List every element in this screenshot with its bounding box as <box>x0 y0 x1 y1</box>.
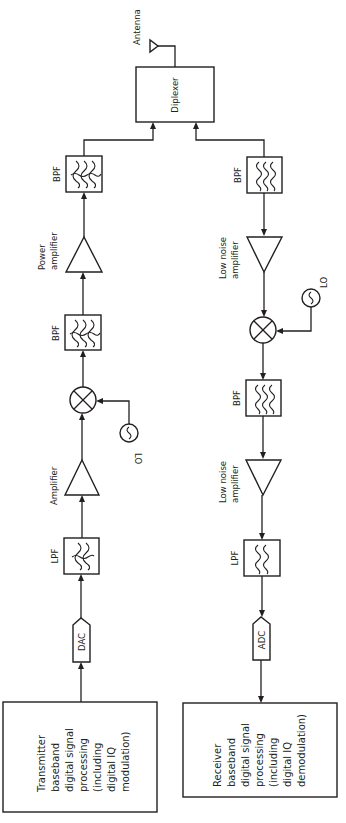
tx-dsp-line2: baseband <box>50 743 61 792</box>
tx-connectors <box>78 122 156 702</box>
rx-lo-label: LO <box>319 277 329 288</box>
antenna-label: Antenna <box>132 9 142 45</box>
antenna-icon <box>150 40 158 52</box>
rx-local-oscillator: LO <box>302 277 329 307</box>
arrow-left-icon <box>276 328 283 334</box>
tx-bpf1: BPF <box>51 315 101 350</box>
transceiver-diagram: Antenna Diplexer <box>0 0 346 823</box>
amplifier-icon <box>246 460 281 495</box>
diplexer-label: Diplexer <box>170 77 180 113</box>
tx-local-oscillator: LO <box>120 424 143 464</box>
arrow-down-icon <box>261 229 267 236</box>
arrow-up-icon <box>78 574 84 581</box>
rx-bpf2: BPF <box>232 380 281 416</box>
tx-lo-label: LO <box>133 453 143 464</box>
rx-mixer <box>250 317 276 343</box>
dac: DAC <box>73 618 90 662</box>
tx-dsp-line5: (including <box>92 743 103 792</box>
rx-dsp-line3: digital signal <box>240 723 251 787</box>
rx-bpf1: BPF <box>233 157 282 193</box>
tx-mixer <box>70 387 96 413</box>
tx-lpf: LPF <box>50 538 99 574</box>
rx-dsp-line4: processing <box>254 733 265 787</box>
rx-lna1-label-line2: amplifier <box>230 241 240 279</box>
amplifier-icon <box>65 460 99 495</box>
amplifier-icon <box>247 237 282 272</box>
tx-dsp-line1: Transmitter <box>36 734 47 793</box>
rx-lna1: Low noise amplifier <box>218 237 282 279</box>
antenna: Antenna <box>132 9 175 67</box>
rx-lpf: LPF <box>230 540 280 576</box>
rx-lna1-label-line1: Low noise <box>218 237 228 279</box>
diplexer: Diplexer <box>136 67 214 122</box>
arrow-up-icon <box>193 122 199 129</box>
arrow-down-icon <box>258 696 264 703</box>
rx-dsp-line5: (including <box>268 738 279 787</box>
tx-amplifier: Amplifier <box>49 460 99 505</box>
arrow-down-icon <box>259 533 265 540</box>
rx-dsp-line7: demodulation) <box>296 714 307 787</box>
tx-bpf2: BPF <box>52 156 102 192</box>
arrow-left-icon <box>96 398 103 404</box>
arrow-up-icon <box>78 662 84 669</box>
rx-dsp-line2: baseband <box>226 738 237 787</box>
tx-bpf1-label: BPF <box>51 325 61 341</box>
arrow-down-icon <box>259 610 265 617</box>
arrow-up-icon <box>79 495 85 502</box>
rx-dsp-line6: digital IQ <box>282 742 293 787</box>
arrow-up-icon <box>150 122 156 129</box>
arrow-up-icon <box>80 350 86 357</box>
tx-pa-label-line2: amplifier <box>49 232 59 270</box>
rx-bpf1-label: BPF <box>233 167 243 183</box>
amplifier-icon <box>66 237 102 272</box>
tx-dsp: Transmitter baseband digital signal proc… <box>3 702 157 812</box>
tx-dsp-line3: digital signal <box>64 728 75 792</box>
arrow-up-icon <box>80 272 86 279</box>
tx-pa-label-line1: Power <box>37 244 47 270</box>
rx-lpf-label: LPF <box>230 551 240 566</box>
tx-bpf2-label: BPF <box>52 166 62 182</box>
dac-label: DAC <box>77 633 87 651</box>
rx-lna2: Low noise amplifier <box>218 460 281 503</box>
tx-dsp-line4: processing <box>78 738 89 792</box>
rx-bpf2-label: BPF <box>232 390 242 406</box>
rx-lna2-label-line2: amplifier <box>230 465 240 503</box>
tx-lpf-label: LPF <box>50 549 60 564</box>
arrow-down-icon <box>261 310 267 317</box>
adc: ADC <box>253 617 270 660</box>
rx-dsp-line1: Receiver <box>212 743 223 787</box>
tx-amp-label: Amplifier <box>49 466 59 505</box>
adc-label: ADC <box>257 631 267 649</box>
arrow-down-icon <box>260 452 266 459</box>
arrow-up-icon <box>79 413 85 420</box>
tx-power-amplifier: Power amplifier <box>37 232 102 272</box>
arrow-down-icon <box>260 373 266 380</box>
tx-dsp-line6: digital IQ <box>106 747 117 792</box>
arrow-up-icon <box>81 192 87 199</box>
rx-dsp: Receiver baseband digital signal process… <box>183 703 337 797</box>
tx-dsp-line7: modulation) <box>120 731 131 792</box>
rx-lna2-label-line1: Low noise <box>218 461 228 503</box>
